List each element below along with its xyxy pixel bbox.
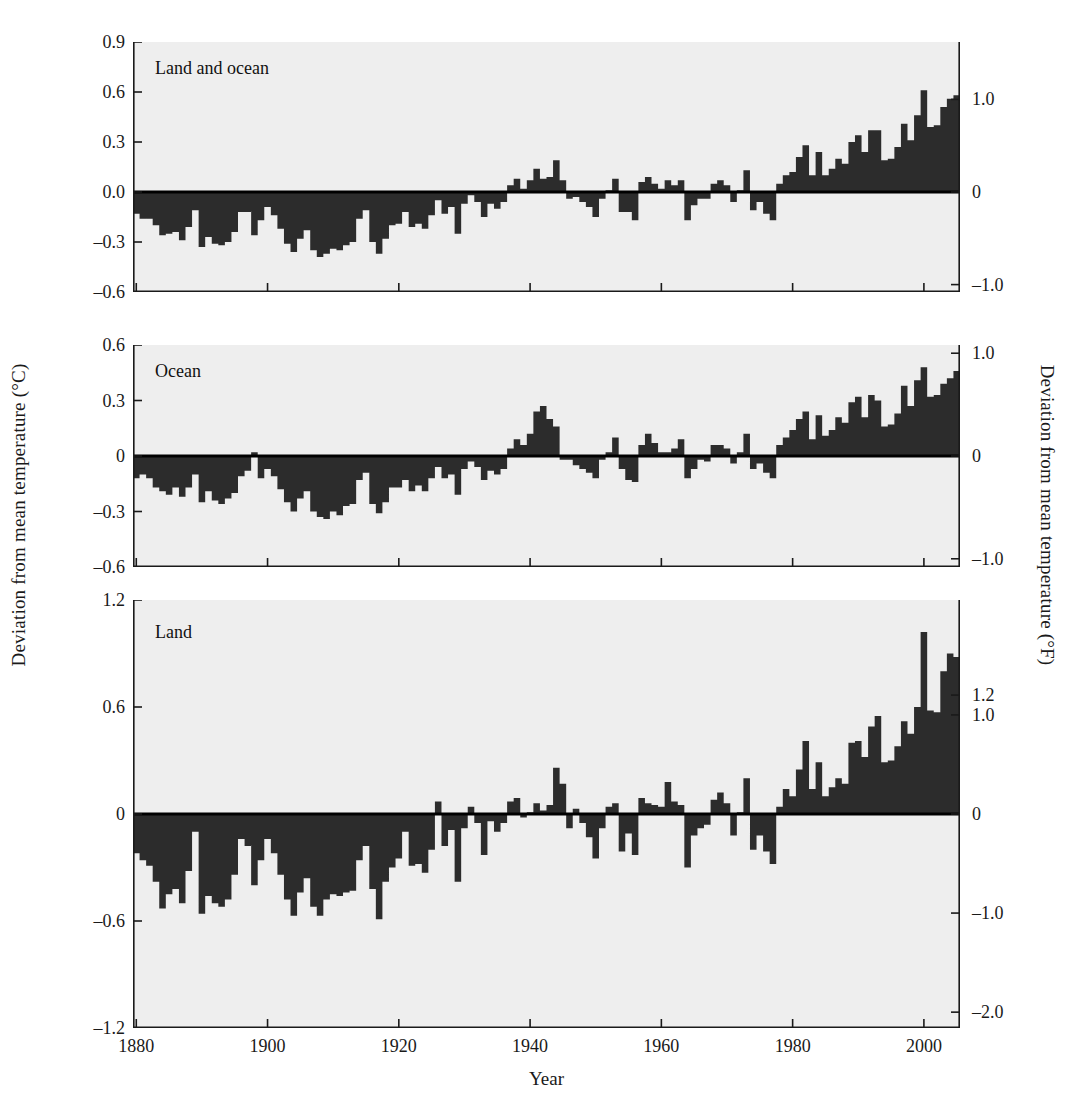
- climate-anomaly-figure: Deviation from mean temperature (°C) Dev…: [0, 0, 1078, 1120]
- bars: [133, 367, 960, 519]
- y-tick-label-right: 0: [972, 446, 981, 467]
- panel-ocean: Ocean: [133, 345, 960, 567]
- y-tick-label-left: 1.2: [71, 590, 125, 611]
- x-axis-label: Year: [133, 1068, 960, 1090]
- y-tick-label-left: 0.3: [71, 132, 125, 153]
- y-tick-label-left: 0.6: [71, 335, 125, 356]
- y-tick-label-left: –1.2: [71, 1018, 125, 1039]
- bars: [133, 90, 960, 257]
- panel-title-land: Land: [155, 622, 192, 643]
- y-tick-label-left: 0.6: [71, 82, 125, 103]
- y-tick-label-left: –0.6: [71, 282, 125, 303]
- y-tick-label-left: 0: [71, 446, 125, 467]
- y-tick-label-right: –1.0: [972, 274, 1004, 295]
- x-tick-label: 1980: [775, 1036, 811, 1057]
- panel-land-and-ocean: Land and ocean: [133, 42, 960, 292]
- x-tick-label: 2000: [906, 1036, 942, 1057]
- y-tick-label-right: –1.0: [972, 903, 1004, 924]
- y-tick-label-right: 0: [972, 804, 981, 825]
- y-tick-label-right: 1.0: [972, 704, 995, 725]
- y-tick-label-left: –0.6: [71, 557, 125, 578]
- y-tick-label-right: –2.0: [972, 1002, 1004, 1023]
- y-tick-label-right: 0: [972, 182, 981, 203]
- x-tick-label: 1900: [250, 1036, 286, 1057]
- panel-title-land-and-ocean: Land and ocean: [155, 58, 269, 79]
- y-tick-label-left: –0.3: [71, 501, 125, 522]
- bar-series-land: [133, 600, 960, 1028]
- y-tick-label-right: 1.0: [972, 89, 995, 110]
- x-tick-label: 1960: [643, 1036, 679, 1057]
- y-axis-label-right: Deviation from mean temperature (°F): [1028, 0, 1066, 1030]
- x-tick-label: 1940: [512, 1036, 548, 1057]
- y-axis-label-left: Deviation from mean temperature (°C): [0, 0, 38, 1030]
- y-tick-label-right: –1.0: [972, 548, 1004, 569]
- x-tick-label: 1920: [381, 1036, 417, 1057]
- y-tick-label-left: –0.3: [71, 232, 125, 253]
- panel-land: Land: [133, 600, 960, 1028]
- bar-series-land-and-ocean: [133, 42, 960, 292]
- y-tick-label-left: 0.3: [71, 390, 125, 411]
- y-tick-label-left: 0: [71, 804, 125, 825]
- bar-series-ocean: [133, 345, 960, 567]
- panel-title-ocean: Ocean: [155, 361, 201, 382]
- bars: [133, 632, 960, 919]
- y-tick-label-left: 0.6: [71, 697, 125, 718]
- y-tick-label-left: 0.0: [71, 182, 125, 203]
- y-tick-label-left: –0.6: [71, 911, 125, 932]
- x-tick-label: 1880: [118, 1036, 154, 1057]
- y-tick-label-right: 1.2: [972, 685, 995, 706]
- y-tick-label-right: 1.0: [972, 343, 995, 364]
- y-tick-label-left: 0.9: [71, 32, 125, 53]
